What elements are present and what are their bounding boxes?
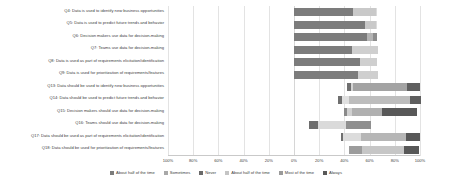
x-tick-label: 0%	[291, 157, 297, 164]
bar-segment[interactable]	[294, 71, 358, 79]
bar-segment[interactable]	[353, 8, 376, 16]
bar-segment[interactable]	[360, 58, 378, 66]
table-row	[168, 33, 420, 41]
legend-item[interactable]: About half of the time	[110, 170, 155, 176]
x-tick-label: 80%	[391, 157, 399, 164]
x-axis-line	[168, 155, 420, 156]
category-label: Q14: Data should be used to predict futu…	[50, 95, 164, 101]
category-label: Q15: Decision makers should use data for…	[57, 108, 164, 114]
legend-swatch-icon	[199, 171, 203, 175]
table-row	[168, 133, 420, 141]
legend-swatch-icon	[225, 171, 229, 175]
bar-segment[interactable]	[373, 33, 377, 41]
bar-segment[interactable]	[309, 121, 318, 129]
legend-item[interactable]: Most of the time	[279, 170, 314, 176]
diverging-stacked-bar-chart: Q4: Data is used to identify new busines…	[0, 0, 452, 191]
bar-segment[interactable]	[349, 146, 362, 154]
bar-segment[interactable]	[376, 8, 377, 16]
bar-segment[interactable]	[294, 46, 352, 54]
x-axis-ticks: 100%80%60%40%20%0%20%40%60%80%100%	[168, 157, 420, 166]
table-row	[168, 96, 420, 104]
x-tick-label: 100%	[163, 157, 173, 164]
bar-segment[interactable]	[294, 8, 353, 16]
x-tick-label: 80%	[189, 157, 197, 164]
x-tick-label: 40%	[340, 157, 348, 164]
x-tick-label: 60%	[214, 157, 222, 164]
table-row	[168, 121, 420, 129]
legend-label: Always	[329, 170, 342, 176]
bar-segment[interactable]	[294, 58, 360, 66]
bar-segment[interactable]	[294, 33, 367, 41]
legend-swatch-icon	[323, 171, 327, 175]
legend-item[interactable]: Always	[323, 170, 342, 176]
category-label: Q17: Data should be used as part of requ…	[31, 133, 164, 139]
table-row	[168, 146, 420, 154]
legend-item[interactable]: Sometimes	[164, 170, 190, 176]
table-row	[168, 108, 420, 116]
x-tick-label: 100%	[415, 157, 425, 164]
legend-swatch-icon	[110, 171, 114, 175]
bar-segment[interactable]	[352, 46, 378, 54]
legend-swatch-icon	[164, 171, 168, 175]
table-row	[168, 83, 420, 91]
bar-segment[interactable]	[353, 83, 407, 91]
table-row	[168, 71, 420, 79]
plot-area	[168, 6, 420, 156]
bar-segment[interactable]	[342, 96, 350, 104]
bar-segment[interactable]	[294, 21, 365, 29]
bar-segment[interactable]	[358, 71, 378, 79]
category-label: Q4: Data is used to identify new busines…	[64, 8, 164, 14]
category-label: Q6: Decision makers use data for decisio…	[73, 33, 164, 39]
x-tick-label: 60%	[365, 157, 373, 164]
bar-segment[interactable]	[410, 96, 421, 104]
bar-segment[interactable]	[343, 133, 361, 141]
bar-segment[interactable]	[361, 133, 406, 141]
legend-label: About half of the time	[116, 170, 155, 176]
bar-segment[interactable]	[406, 133, 420, 141]
bar-segment[interactable]	[404, 146, 419, 154]
category-label: Q9: Data is used for prioritization of r…	[59, 70, 164, 76]
table-row	[168, 21, 420, 29]
category-label: Q16: Teams should use data for decision-…	[75, 120, 164, 126]
legend-swatch-icon	[279, 171, 283, 175]
bar-segment[interactable]	[346, 121, 371, 129]
bar-segment[interactable]	[362, 146, 404, 154]
gridline	[420, 6, 421, 156]
legend-label: Most of the time	[285, 170, 314, 176]
x-tick-label: 20%	[265, 157, 273, 164]
bar-segment[interactable]	[382, 108, 417, 116]
table-row	[168, 8, 420, 16]
table-row	[168, 58, 420, 66]
table-row	[168, 46, 420, 54]
category-labels: Q4: Data is used to identify new busines…	[0, 6, 166, 156]
category-label: Q13: Data should be used to identify new…	[47, 83, 164, 89]
bar-segment[interactable]	[376, 21, 377, 29]
bar-rows	[168, 6, 420, 156]
legend-label: About half of the time	[231, 170, 270, 176]
legend-item[interactable]: Never	[199, 170, 216, 176]
x-tick-label: 20%	[315, 157, 323, 164]
category-label: Q7: Teams use data for decision-making	[91, 45, 164, 51]
bar-segment[interactable]	[407, 83, 420, 91]
category-label: Q18: Data should be used for prioritizat…	[42, 145, 164, 151]
legend-item[interactable]: About half of the time	[225, 170, 270, 176]
bar-segment[interactable]	[365, 21, 376, 29]
chart-legend: About half of the timeSometimesNeverAbou…	[0, 170, 452, 176]
bar-segment[interactable]	[349, 96, 409, 104]
category-label: Q8: Data is used as part of requirements…	[48, 58, 164, 64]
x-tick-label: 40%	[239, 157, 247, 164]
legend-label: Sometimes	[170, 170, 190, 176]
category-label: Q5: Data is used to predict future trend…	[67, 20, 164, 26]
legend-label: Never	[205, 170, 216, 176]
bar-segment[interactable]	[352, 108, 382, 116]
bar-segment[interactable]	[318, 121, 346, 129]
